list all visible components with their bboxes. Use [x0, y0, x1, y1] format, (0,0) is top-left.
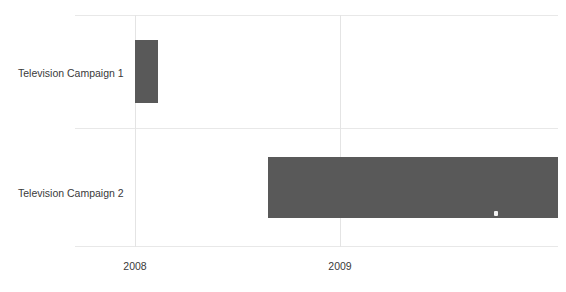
category-label-television-campaign-1: Television Campaign 1 [18, 68, 124, 79]
gridline-horizontal-middle [75, 128, 558, 129]
gantt-chart: Television Campaign 1 Television Campaig… [0, 0, 566, 292]
bar-television-campaign-1[interactable] [135, 40, 158, 103]
gridline-horizontal-top [75, 15, 558, 16]
plot-area [75, 15, 558, 247]
bar-television-campaign-2[interactable] [268, 157, 558, 218]
x-axis-tick-2008: 2008 [123, 261, 146, 272]
category-label-television-campaign-2: Television Campaign 2 [18, 188, 124, 199]
bar-marker-dot [494, 211, 498, 216]
x-axis-tick-2009: 2009 [328, 261, 351, 272]
axis-line-x [75, 246, 558, 247]
